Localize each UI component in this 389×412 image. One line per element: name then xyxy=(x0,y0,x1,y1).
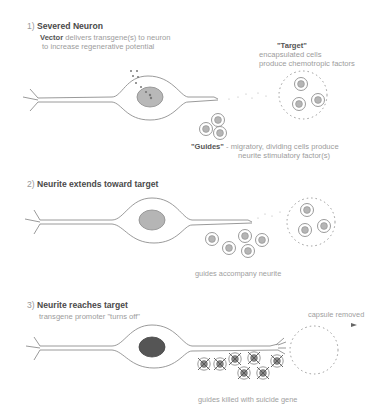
removed-capsule-outline xyxy=(290,326,338,374)
chemotropic-gradient xyxy=(228,92,266,99)
arrow-right-icon xyxy=(351,323,357,327)
panel2-target-capsule xyxy=(287,198,335,246)
panel1-neuron xyxy=(23,76,218,120)
panel2-gradient xyxy=(257,211,280,218)
panel2-nucleus xyxy=(139,210,165,230)
panel3-dead-guide-cells xyxy=(198,352,283,379)
diagram-canvas xyxy=(0,0,389,412)
panel1-nucleus xyxy=(137,87,163,107)
panel2-guide-cells xyxy=(206,230,269,258)
panel1-target-capsule xyxy=(279,71,327,119)
panel1-guide-cells xyxy=(200,114,227,140)
panel3-nucleus xyxy=(139,337,165,357)
